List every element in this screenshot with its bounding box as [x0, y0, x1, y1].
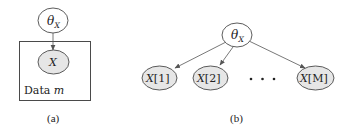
theta-node-a: θ X: [38, 8, 68, 33]
plate-label: Data m: [24, 84, 64, 97]
x-node-a: X: [38, 50, 69, 74]
svg-text:X[1]: X[1]: [145, 72, 169, 85]
diagram-svg: θ X X Data m (a) θ X X[1]: [0, 0, 349, 134]
theta-subscript: X: [54, 21, 61, 30]
svg-text:X[M]: X[M]: [299, 72, 328, 85]
panel-b: θ X X[1] X[2] X[M] (b): [142, 23, 334, 125]
svg-text:X[2]: X[2]: [196, 72, 220, 85]
edge-theta-to-x2: [220, 47, 233, 65]
xm-node: X[M]: [297, 66, 334, 90]
ellipsis-dots: [250, 78, 276, 81]
edge-theta-to-xm: [249, 41, 305, 68]
panel-a: θ X X Data m (a): [20, 8, 91, 125]
x2-node: X[2]: [193, 66, 228, 90]
theta-subscript: X: [238, 35, 245, 44]
edge-theta-to-x1: [175, 42, 226, 68]
plate-notation-figure: θ X X Data m (a) θ X X[1]: [0, 0, 349, 134]
caption-a: (a): [47, 112, 60, 125]
theta-node-b: θ X: [222, 23, 252, 47]
x1-node: X[1]: [142, 66, 177, 90]
x-node-label: X: [48, 56, 58, 69]
caption-b: (b): [230, 112, 243, 125]
